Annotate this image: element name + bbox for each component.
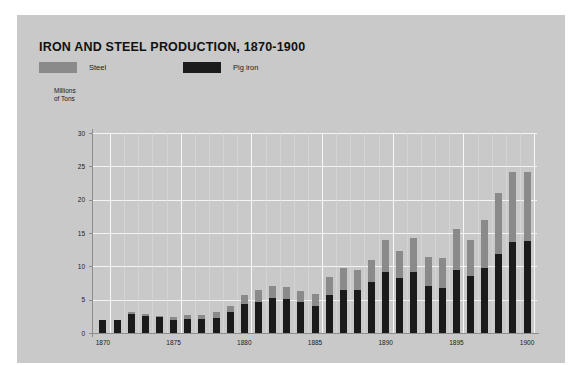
gridline-vertical <box>478 133 479 333</box>
gridline-vertical <box>280 133 281 333</box>
bar-segment-pig-iron <box>255 302 262 333</box>
legend-label: Pig iron <box>233 62 258 73</box>
bar-segment-steel <box>410 238 417 271</box>
bar-segment-steel <box>425 257 432 286</box>
bar-group <box>354 133 361 333</box>
bar-segment-pig-iron <box>241 304 248 333</box>
y-tick-mark <box>89 233 93 234</box>
gridline-vertical <box>350 133 351 333</box>
gridline-vertical <box>364 133 365 333</box>
bar-group <box>142 133 149 333</box>
bar-segment-pig-iron <box>297 302 304 333</box>
x-tick-label: 1880 <box>229 339 259 346</box>
y-tick-label: 15 <box>65 230 85 237</box>
x-tick-label: 1890 <box>371 339 401 346</box>
bar-segment-steel <box>241 295 248 304</box>
bar-group <box>297 133 304 333</box>
x-tick-label: 1900 <box>512 339 542 346</box>
gridline-vertical <box>435 133 436 333</box>
y-tick-mark <box>89 166 93 167</box>
bar-group <box>227 133 234 333</box>
bar-group <box>283 133 290 333</box>
bar-segment-pig-iron <box>198 319 205 333</box>
gridline-vertical <box>251 133 252 333</box>
bar-segment-steel <box>396 251 403 278</box>
bar-segment-pig-iron <box>156 317 163 333</box>
bar-segment-pig-iron <box>326 295 333 333</box>
y-tick-mark <box>89 266 93 267</box>
legend-swatch-icon <box>39 62 77 73</box>
gridline-vertical <box>492 133 493 333</box>
bar-segment-pig-iron <box>481 268 488 333</box>
bar-segment-pig-iron <box>396 278 403 333</box>
bar-group <box>198 133 205 333</box>
bar-group <box>184 133 191 333</box>
y-tick-label: 20 <box>65 196 85 203</box>
gridline-vertical <box>379 133 380 333</box>
bar-segment-steel <box>227 306 234 313</box>
bar-segment-pig-iron <box>354 290 361 333</box>
gridline-vertical <box>209 133 210 333</box>
y-tick-mark <box>89 300 93 301</box>
gridline-vertical <box>181 133 182 333</box>
bar-segment-steel <box>283 287 290 299</box>
bar-group <box>128 133 135 333</box>
bar-segment-steel <box>509 172 516 243</box>
bar-group <box>241 133 248 333</box>
y-axis-label-line2: of Tons <box>54 95 76 103</box>
bar-segment-pig-iron <box>213 318 220 333</box>
bar-segment-pig-iron <box>269 298 276 333</box>
y-tick-label: 25 <box>65 163 85 170</box>
bar-group <box>255 133 262 333</box>
bar-group <box>481 133 488 333</box>
bar-group <box>312 133 319 333</box>
gridline-vertical <box>421 133 422 333</box>
bar-segment-pig-iron <box>283 299 290 333</box>
gridline-vertical <box>152 133 153 333</box>
y-tick-label: 10 <box>65 263 85 270</box>
bar-group <box>326 133 333 333</box>
gridline-vertical <box>534 133 535 333</box>
x-tick-label: 1875 <box>159 339 189 346</box>
bar-group <box>410 133 417 333</box>
bar-segment-steel <box>326 277 333 295</box>
x-tick-label: 1885 <box>300 339 330 346</box>
gridline-vertical <box>110 133 111 333</box>
chart-card: IRON AND STEEL PRODUCTION, 1870-1900 Ste… <box>17 15 565 363</box>
bar-segment-pig-iron <box>425 286 432 333</box>
bar-segment-pig-iron <box>340 290 347 333</box>
gridline-vertical <box>167 133 168 333</box>
bar-group <box>495 133 502 333</box>
bar-segment-steel <box>340 268 347 291</box>
y-axis-label-line1: Millions <box>54 87 76 95</box>
bar-group <box>439 133 446 333</box>
bar-group <box>269 133 276 333</box>
gridline-vertical <box>449 133 450 333</box>
bar-segment-steel <box>495 193 502 254</box>
bar-segment-pig-iron <box>524 241 531 333</box>
bar-segment-pig-iron <box>312 306 319 333</box>
bar-segment-pig-iron <box>227 312 234 333</box>
y-tick-label: 0 <box>65 330 85 337</box>
y-tick-label: 30 <box>65 130 85 137</box>
bar-segment-steel <box>453 229 460 270</box>
bar-segment-steel <box>255 290 262 302</box>
bar-segment-steel <box>312 294 319 306</box>
bar-segment-steel <box>439 258 446 288</box>
x-tick-label: 1870 <box>88 339 118 346</box>
bar-group <box>99 133 106 333</box>
legend-swatch-icon <box>183 62 221 73</box>
gridline-vertical <box>506 133 507 333</box>
x-tick-label: 1895 <box>441 339 471 346</box>
gridline-vertical <box>407 133 408 333</box>
bar-group <box>114 133 121 333</box>
bar-segment-pig-iron <box>467 276 474 333</box>
bar-group <box>156 133 163 333</box>
gridline-vertical <box>336 133 337 333</box>
gridline-vertical <box>124 133 125 333</box>
gridline-vertical <box>138 133 139 333</box>
gridline-vertical <box>463 133 464 333</box>
bar-group <box>524 133 531 333</box>
bar-group <box>368 133 375 333</box>
gridline-vertical <box>223 133 224 333</box>
